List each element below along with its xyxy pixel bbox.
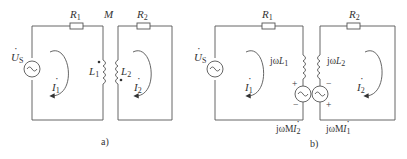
b-dep1-minus: − — [293, 101, 298, 111]
diagram-b-right-loop — [312, 23, 395, 120]
b-source-label: U·S — [194, 52, 206, 65]
b-dep-source1-label: jωMI·2 — [276, 125, 301, 136]
a-inductor1-label: L1 — [89, 66, 99, 79]
b-dep1-plus: + — [292, 80, 297, 90]
b-dep2-plus: + — [326, 101, 331, 111]
a-resistor2-label: R2 — [137, 9, 148, 22]
phasor-dot-icon: · — [14, 43, 18, 54]
polarity-dot-l1 — [98, 61, 101, 64]
a-resistor1-label: R1 — [70, 9, 81, 22]
phasor-dot-icon: · — [55, 73, 59, 84]
phasor-dot-icon: · — [296, 116, 300, 127]
a-source-label: U·S — [11, 52, 23, 65]
a-current1-label: I·1 — [52, 82, 60, 95]
a-mutual-label: M — [104, 9, 113, 20]
b-current1-label: I·1 — [245, 82, 253, 95]
b-dep2-minus: − — [326, 80, 331, 90]
phasor-dot-icon: · — [197, 43, 201, 54]
a-inductor2-label: L2 — [121, 66, 131, 79]
b-resistor1-label: R1 — [262, 9, 273, 22]
phasor-dot-icon: · — [137, 73, 141, 84]
a-current2-label: I·2 — [134, 82, 142, 95]
phasor-dot-icon: · — [248, 73, 252, 84]
polarity-dot-l2 — [120, 79, 123, 82]
b-dep-source2-label: jωMI·1 — [326, 125, 351, 136]
b-resistor2-label: R2 — [349, 9, 360, 22]
b-inductor1-label: jωL1 — [270, 57, 288, 68]
b-inductor2-label: jωL2 — [327, 57, 345, 68]
a-caption: a) — [101, 137, 109, 147]
b-caption: b) — [310, 139, 318, 149]
b-current2-label: I·2 — [357, 82, 365, 95]
phasor-dot-icon: · — [346, 116, 350, 127]
phasor-dot-icon: · — [360, 73, 364, 84]
